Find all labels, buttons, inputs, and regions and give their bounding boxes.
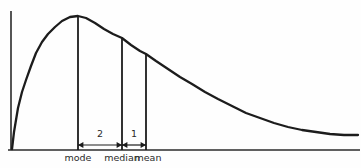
gap-label-mode-to-median: 2 — [97, 128, 103, 139]
gap-label-median-to-mean: 1 — [131, 128, 137, 139]
gap-arrow-median-to-mean — [122, 142, 146, 148]
mode-axis-label: mode — [65, 152, 92, 163]
mean-axis-label: mean — [135, 152, 162, 163]
gap-arrow-mode-to-median — [78, 142, 122, 148]
distribution-curve — [12, 16, 358, 149]
skewed-distribution-figure: 2 1 mode median mean — [0, 0, 361, 168]
distribution-chart-svg: 2 1 mode median mean — [0, 0, 361, 168]
